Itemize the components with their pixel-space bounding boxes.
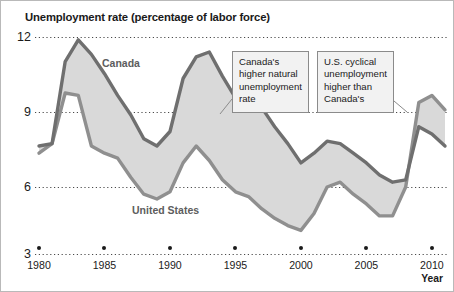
series-label-united-states: United States: [132, 204, 199, 216]
x-axis-title: Year: [421, 273, 443, 284]
x-axis-tick-label: 2010: [409, 259, 454, 271]
callout-us-cyclical: U.S. cyclical unemployment higher than C…: [317, 51, 394, 113]
x-axis-tick-label: 1980: [16, 259, 62, 271]
callout-canada-natural-rate: Canada's higher natural unemployment rat…: [232, 51, 309, 113]
callout-line: higher than: [324, 81, 388, 93]
chart-figure: Unemployment rate (percentage of labor f…: [0, 0, 454, 292]
callout-line: rate: [239, 93, 303, 105]
callout-line: U.S. cyclical: [324, 56, 388, 68]
x-axis-tick-label: 1985: [81, 259, 127, 271]
x-axis-tick-label: 2005: [343, 259, 389, 271]
callout-line: Canada's: [239, 56, 303, 68]
x-axis-tick-dot: [430, 246, 434, 250]
x-axis-tick-label: 2000: [278, 259, 324, 271]
x-axis-tick-dot: [299, 246, 303, 250]
x-axis-tick-label: 1995: [212, 259, 258, 271]
x-axis-tick-label: 1990: [147, 259, 193, 271]
callout-line: Canada's: [324, 93, 388, 105]
callout-line: higher natural: [239, 68, 303, 80]
x-axis-tick-dot: [168, 246, 172, 250]
x-axis-tick-dot: [37, 246, 41, 250]
plot-area: [1, 1, 454, 292]
callout-line: unemployment: [239, 81, 303, 93]
series-label-canada: Canada: [102, 57, 140, 69]
callout-line: unemployment: [324, 68, 388, 80]
